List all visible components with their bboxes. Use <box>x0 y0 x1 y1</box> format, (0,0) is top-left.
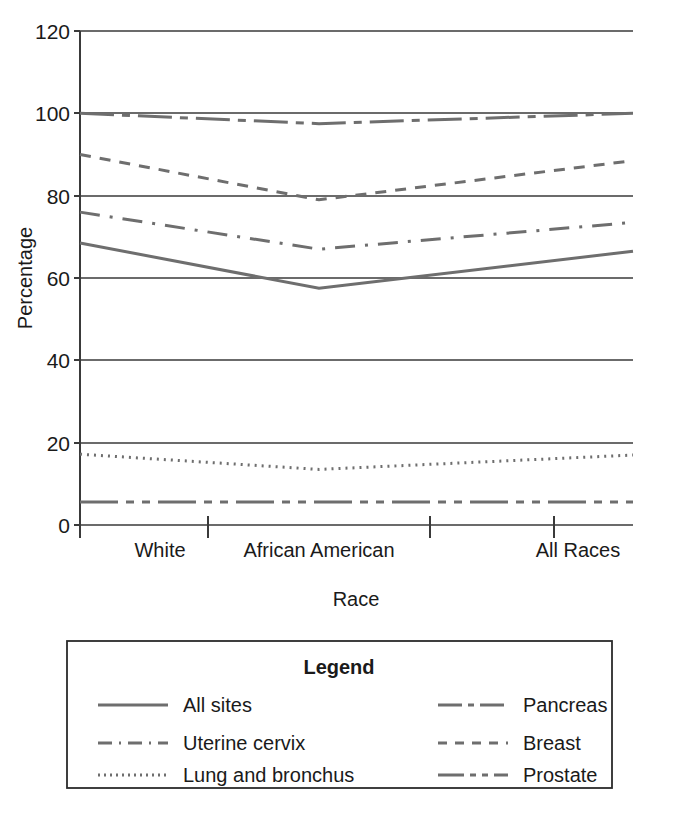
series-line-uterine-cervix <box>80 212 633 249</box>
legend-label-breast: Breast <box>523 732 581 754</box>
y-axis-tick-labels: 120 100 80 60 40 20 0 <box>35 20 70 537</box>
y-tick-label-120: 120 <box>35 20 70 43</box>
series-line-all-sites <box>80 243 633 288</box>
gridlines <box>80 31 633 525</box>
legend-label-uterine-cervix: Uterine cervix <box>183 732 305 754</box>
legend-label-pancreas: Pancreas <box>523 694 608 716</box>
y-tick-label-80: 80 <box>47 185 70 208</box>
x-axis-ticks <box>80 516 554 538</box>
y-tick-label-100: 100 <box>35 102 70 125</box>
y-axis-title: Percentage <box>14 227 36 329</box>
legend-label-lung-and-bronchus: Lung and bronchus <box>183 764 354 786</box>
y-tick-label-20: 20 <box>47 432 70 455</box>
y-tick-label-60: 60 <box>47 267 70 290</box>
chart-canvas: 120 100 80 60 40 20 0 Percentage <box>0 0 681 829</box>
legend-label-all-sites: All sites <box>183 694 252 716</box>
legend-label-prostate: Prostate <box>523 764 597 786</box>
legend-title: Legend <box>303 656 374 678</box>
series-line-lung-and-bronchus <box>80 454 633 469</box>
x-axis-title: Race <box>333 588 380 610</box>
x-axis-category-labels: White African American All Races <box>134 539 620 561</box>
line-chart-figure: 120 100 80 60 40 20 0 Percentage <box>0 0 681 829</box>
x-label-all-races: All Races <box>536 539 620 561</box>
y-tick-label-0: 0 <box>58 514 70 537</box>
x-label-white: White <box>134 539 185 561</box>
legend-left-column: All sites Uterine cervix Lung and bronch… <box>98 694 354 786</box>
legend-right-column: Pancreas Breast Prostate <box>438 694 608 786</box>
series-line-pancreas <box>80 113 633 123</box>
x-label-african-american: African American <box>243 539 394 561</box>
series-line-breast <box>80 155 633 200</box>
y-tick-label-40: 40 <box>47 349 70 372</box>
